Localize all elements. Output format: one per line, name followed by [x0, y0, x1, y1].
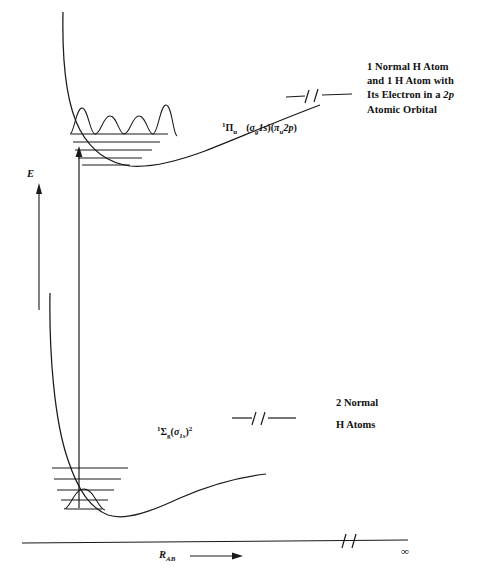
upper-config-mid: )(	[267, 122, 274, 133]
lower-config-exponent: 2	[189, 425, 193, 433]
distance-axis	[22, 534, 408, 559]
lower-caption-line-1: 2 Normal	[336, 392, 456, 414]
upper-term-parity: u	[233, 128, 237, 136]
distance-axis-line-left	[22, 540, 408, 543]
energy-axis-arrowhead	[36, 183, 42, 194]
energy-axis	[36, 183, 42, 310]
upper-dissociation-caption: 1 Normal H Atom and 1 H Atom with Its El…	[367, 60, 485, 117]
upper-dissociation-line-left	[286, 96, 305, 97]
upper-caption-line-4: Atomic Orbital	[367, 103, 485, 117]
upper-config-sigma-orbital: 1s	[258, 122, 267, 133]
upper-caption-line-1: 1 Normal H Atom	[367, 60, 485, 74]
transition-arrow-head	[76, 146, 83, 157]
lower-break-mark-1	[252, 412, 256, 425]
vertical-transition-arrow	[76, 146, 83, 508]
distance-axis-label: RAB	[159, 549, 175, 563]
lower-state-group	[50, 293, 296, 517]
distance-axis-label-subscript: AB	[166, 555, 175, 563]
lower-break-mark-2	[261, 412, 265, 425]
upper-state-group	[63, 12, 352, 166]
distance-axis-arrowhead	[232, 553, 243, 560]
upper-state-term-symbol: 1Πu(σg1s)(πu2p)	[222, 121, 297, 136]
distance-axis-label-letter: R	[159, 549, 166, 560]
upper-caption-line-3: Its Electron in a 2p	[367, 88, 485, 102]
infinity-symbol: ∞	[401, 545, 409, 557]
upper-caption-line-3-text: Its Electron in a	[367, 89, 443, 100]
upper-caption-orbital-token: 2p	[443, 89, 454, 100]
upper-potential-curve	[63, 12, 320, 166]
upper-caption-line-2: and 1 H Atom with	[367, 74, 485, 88]
lower-potential-curve	[50, 293, 266, 517]
upper-break-mark-1	[305, 90, 309, 103]
upper-config-pi-orbital: 2p	[283, 122, 293, 133]
upper-config-close: )	[293, 122, 296, 133]
lower-dissociation-caption: 2 Normal H Atoms	[336, 392, 456, 436]
energy-axis-label: E	[27, 168, 34, 179]
upper-vibrational-wavefunction	[70, 105, 177, 136]
upper-break-mark-2	[314, 89, 318, 102]
lower-state-term-symbol: 1Σg(σ1s)2	[157, 425, 192, 440]
lower-caption-line-2: H Atoms	[336, 414, 456, 436]
distance-axis-break-mark-2	[352, 534, 356, 548]
upper-dissociation-line-right	[322, 94, 352, 95]
